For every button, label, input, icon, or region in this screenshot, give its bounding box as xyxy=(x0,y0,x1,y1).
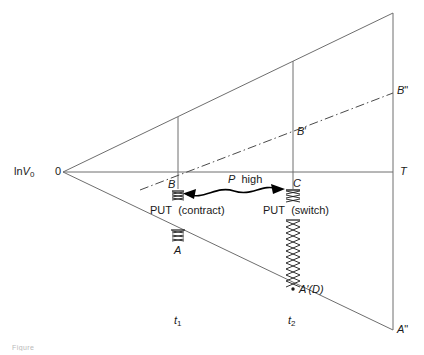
p-high-wavy-arrow xyxy=(183,184,285,199)
point-label-a-double-prime: A" xyxy=(397,324,408,335)
origin-label: 0 xyxy=(55,166,61,177)
annotation-p-high: P high xyxy=(228,174,262,185)
diagram-canvas xyxy=(0,0,424,355)
annotation-put-contract: PUT (contract) xyxy=(150,205,225,216)
tick-label-t1: t1 xyxy=(174,315,182,328)
point-label-b-double-prime: B" xyxy=(397,85,408,96)
annotation-put-switch: PUT (switch) xyxy=(263,205,329,216)
point-label-a-prime-d: A'(D) xyxy=(299,284,324,295)
zigzag-c-long xyxy=(286,220,300,287)
caption-fragment: Figure xyxy=(12,344,34,351)
figure-root: lnln VV0 0 T B C A B' B" A'(D) A" P high… xyxy=(0,0,424,355)
point-label-c: C xyxy=(293,178,301,189)
zigzag-a xyxy=(171,230,185,241)
point-label-a: A xyxy=(174,245,181,256)
point-label-b: B xyxy=(168,179,175,190)
tick-label-t2: t2 xyxy=(288,315,296,328)
t-axis-end-label: T xyxy=(400,166,407,177)
cone-upper-edge xyxy=(63,13,393,172)
y-axis-label: lnln VV0 xyxy=(14,166,34,179)
zigzag-c xyxy=(286,190,300,202)
cone-lower-edge xyxy=(63,172,393,330)
zigzag-b xyxy=(172,191,184,200)
point-label-b-prime: B' xyxy=(297,126,306,137)
point-marker-aprime-d xyxy=(291,287,294,290)
